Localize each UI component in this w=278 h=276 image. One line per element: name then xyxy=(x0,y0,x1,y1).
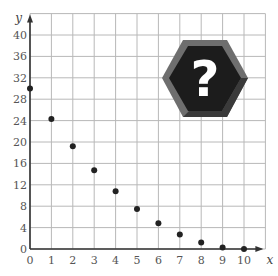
y-tick-label: 16 xyxy=(13,157,27,170)
question-mark: ? xyxy=(190,50,219,108)
x-tick-label: 8 xyxy=(198,254,205,267)
y-tick-label: 32 xyxy=(13,72,27,85)
x-tick-label: 0 xyxy=(27,254,34,267)
data-point xyxy=(27,86,33,92)
x-tick-label: 10 xyxy=(237,254,251,267)
data-point xyxy=(220,244,226,250)
data-point xyxy=(134,206,140,212)
x-tick-label: 9 xyxy=(219,254,226,267)
x-tick-label: 2 xyxy=(69,254,76,267)
question-mark-hexagon-icon: ? xyxy=(162,40,248,117)
scatter-chart: 0123456789100481216202428323640 x y ? xyxy=(0,0,278,276)
y-tick-label: 8 xyxy=(20,200,27,213)
y-axis-arrow-icon xyxy=(27,15,33,23)
data-point xyxy=(48,116,54,122)
x-tick-label: 1 xyxy=(48,254,55,267)
x-tick-label: 5 xyxy=(134,254,141,267)
data-point xyxy=(113,188,119,194)
y-tick-label: 12 xyxy=(13,179,27,192)
x-axis-label: x xyxy=(266,253,273,267)
data-point xyxy=(91,167,97,173)
x-tick-label: 6 xyxy=(155,254,162,267)
y-tick-label: 24 xyxy=(13,115,27,128)
x-axis-arrow-icon xyxy=(255,246,263,252)
y-tick-label: 0 xyxy=(20,243,27,256)
data-point xyxy=(177,232,183,238)
y-tick-label: 28 xyxy=(13,93,27,106)
y-tick-label: 20 xyxy=(13,136,27,149)
x-tick-label: 7 xyxy=(176,254,183,267)
y-axis-label: y xyxy=(14,11,22,25)
axes: x y xyxy=(14,11,273,267)
x-tick-label: 4 xyxy=(112,254,119,267)
data-point xyxy=(241,246,247,252)
y-tick-label: 40 xyxy=(13,29,27,42)
y-tick-label: 4 xyxy=(20,222,27,235)
y-tick-label: 36 xyxy=(13,50,27,63)
data-point xyxy=(70,143,76,149)
data-point xyxy=(155,220,161,226)
data-point xyxy=(198,240,204,246)
x-tick-label: 3 xyxy=(91,254,98,267)
